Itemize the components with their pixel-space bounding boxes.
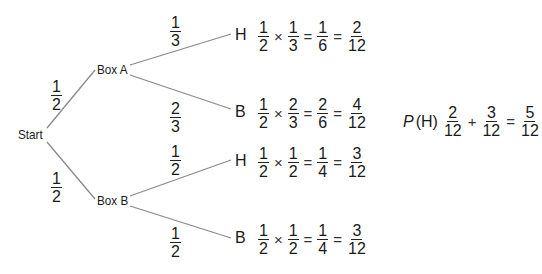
node-box-a: Box A bbox=[97, 63, 128, 77]
node-start: Start bbox=[18, 128, 43, 142]
equation-box-b-b: 12 × 12 = 14 = 312 bbox=[256, 222, 369, 257]
prob-box-b-h: 1 2 bbox=[170, 143, 181, 178]
prob-start-box-a: 1 2 bbox=[51, 78, 62, 113]
total-probability-h: P (H) 212 + 312 = 512 bbox=[403, 104, 542, 139]
node-box-b-outcome-b: B bbox=[235, 230, 246, 246]
prob-start-box-b: 1 2 bbox=[51, 170, 62, 205]
node-box-a-outcome-b: B bbox=[235, 104, 246, 120]
node-box-b: Box B bbox=[97, 194, 128, 208]
prob-box-a-h: 1 3 bbox=[170, 14, 181, 49]
prob-box-a-b: 2 3 bbox=[170, 100, 181, 135]
node-box-a-outcome-h: H bbox=[235, 27, 247, 43]
equation-box-a-b: 12 × 23 = 26 = 412 bbox=[256, 96, 369, 131]
prob-box-b-b: 1 2 bbox=[170, 225, 181, 260]
equation-box-a-h: 12 × 13 = 16 = 212 bbox=[256, 19, 369, 54]
node-box-b-outcome-h: H bbox=[235, 153, 247, 169]
equation-box-b-h: 12 × 12 = 14 = 312 bbox=[256, 145, 369, 180]
